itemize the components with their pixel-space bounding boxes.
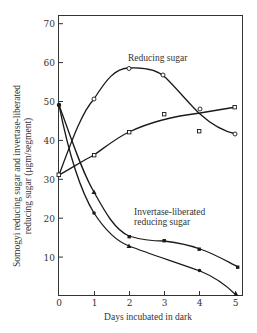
y-tick-40: 40 (44, 136, 56, 146)
y-tick-labels: 70 60 50 40 30 20 10 (44, 19, 56, 263)
y-tick-10: 10 (44, 253, 56, 263)
chart: 70 60 50 40 30 20 10 0 1 2 3 4 5 Days in… (0, 0, 257, 333)
x-tick-1: 1 (92, 298, 98, 308)
x-tick-2: 2 (127, 298, 133, 308)
y-tick-70: 70 (44, 19, 56, 29)
y-tick-20: 20 (44, 214, 56, 224)
y-tick-60: 60 (44, 58, 56, 68)
curve-invertase-upper (59, 105, 238, 267)
x-tick-labels: 0 1 2 3 4 5 (56, 298, 239, 308)
y-axis-title: Somogyi reducing sugar and invertase-lib… (12, 85, 34, 267)
annotation-invertase-line1: Invertase-liberated (134, 207, 205, 217)
markers-open-squares (57, 106, 236, 177)
x-tick-4: 4 (197, 298, 203, 308)
y-axis-title-line2: reducing sugar (μgm/segment) (23, 118, 34, 234)
y-tick-30: 30 (44, 175, 56, 185)
curve-reducing-sugar-squares (59, 107, 236, 175)
annotation-reducing-sugar: Reducing sugar (128, 53, 188, 63)
y-tick-50: 50 (44, 97, 56, 107)
y-axis-title-line1: Somogyi reducing sugar and invertase-lib… (12, 85, 22, 267)
x-tick-3: 3 (162, 298, 168, 308)
x-tick-0: 0 (56, 298, 62, 308)
x-tick-5: 5 (233, 298, 239, 308)
x-axis-title: Days incubated in dark (104, 312, 192, 322)
annotation-invertase-line2: reducing sugar (134, 217, 191, 227)
curve-invertase-lower (59, 105, 236, 295)
markers-filled (57, 103, 240, 296)
